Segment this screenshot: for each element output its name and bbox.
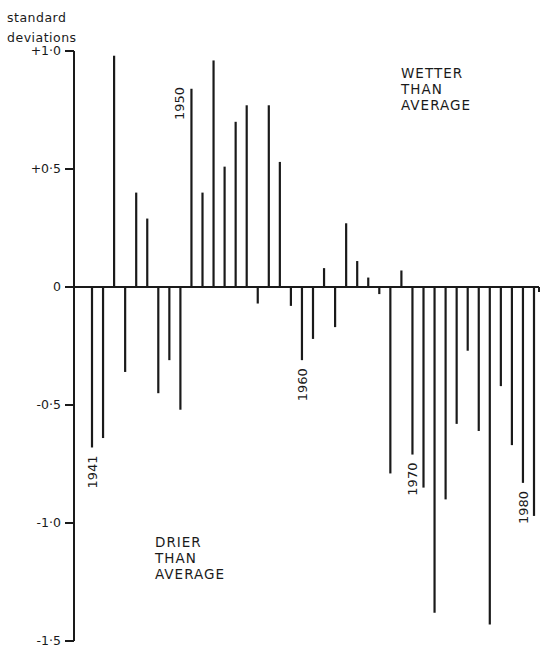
y-axis-title: standard deviations	[7, 10, 77, 45]
annotation-line: THAN	[154, 550, 197, 566]
annotation-line: WETTER	[401, 65, 463, 81]
y-axis: +1·0+0·50-0·5-1·0-1·5	[31, 43, 74, 648]
annotation-line: AVERAGE	[155, 566, 225, 582]
ylabel-line-1: standard	[7, 10, 66, 25]
y-tick-label: 0	[53, 279, 61, 294]
year-label-1970: 1970	[405, 463, 420, 496]
y-tick-label: +0·5	[31, 161, 61, 176]
year-label-1941: 1941	[85, 455, 100, 488]
annotation-line: DRIER	[155, 534, 202, 550]
year-label-1960: 1960	[295, 368, 310, 401]
annotation-wetter-than-average: WETTERTHANAVERAGE	[400, 65, 471, 113]
year-labels: 19411950196019701980	[85, 87, 531, 524]
annotation-drier-than-average: DRIERTHANAVERAGE	[154, 534, 225, 582]
year-label-1980: 1980	[516, 491, 531, 524]
y-tick-label: -1·5	[37, 633, 61, 648]
y-tick-label: -0·5	[37, 397, 61, 412]
annotation-line: AVERAGE	[401, 97, 471, 113]
y-tick-label: +1·0	[31, 43, 61, 58]
year-label-1950: 1950	[172, 87, 187, 120]
annotation-line: THAN	[400, 81, 443, 97]
rainfall-deviation-chart: standard deviations +1·0+0·50-0·5-1·0-1·…	[0, 0, 547, 651]
y-tick-label: -1·0	[37, 515, 61, 530]
